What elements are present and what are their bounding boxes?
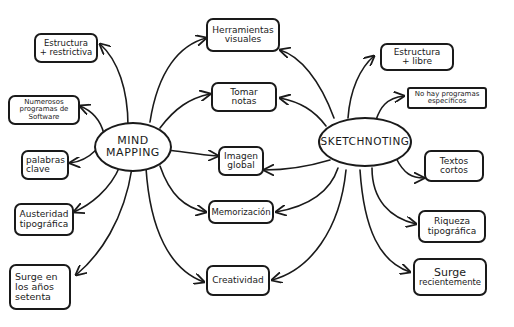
arrow-sk-creatividad bbox=[272, 170, 346, 280]
box-numerosos-programas: Numerosos programas de Software bbox=[8, 95, 80, 125]
box-text: visuales bbox=[225, 35, 261, 44]
box-surge-setenta: Surge en los años setenta bbox=[9, 264, 71, 310]
arrow-sk-textos bbox=[396, 158, 424, 178]
box-creatividad: Creatividad bbox=[206, 265, 270, 296]
sketchnoting-label: SKETCHNOTING bbox=[321, 136, 410, 147]
arrow-mm-austeridad bbox=[74, 166, 120, 212]
box-surge-recientemente: Surge recientemente bbox=[413, 258, 487, 296]
box-text: global bbox=[227, 161, 254, 170]
box-text: + restrictiva bbox=[40, 48, 93, 57]
arrow-sk-imagen bbox=[264, 160, 330, 170]
box-text: específicos bbox=[428, 98, 467, 105]
mind-map-vs-sketchnoting-diagram: MIND MAPPING SKETCHNOTING Estructura + r… bbox=[0, 0, 514, 327]
box-textos-cortos: Textos cortos bbox=[424, 150, 484, 182]
arrow-mm-palabras bbox=[70, 150, 96, 163]
box-text: Creatividad bbox=[212, 276, 264, 285]
box-text: + libre bbox=[402, 57, 432, 66]
sketchnoting-node: SKETCHNOTING bbox=[318, 117, 412, 167]
box-text: notas bbox=[232, 97, 257, 106]
arrow-mm-tomar bbox=[160, 94, 210, 128]
mind-mapping-line2: MAPPING bbox=[106, 147, 160, 159]
arrow-mm-memorizacion bbox=[160, 166, 206, 212]
box-text: recientemente bbox=[419, 278, 481, 287]
arrow-mm-estructura bbox=[100, 44, 128, 126]
box-text: clave bbox=[26, 165, 50, 174]
box-imagen-global: Imagen global bbox=[218, 146, 264, 176]
arrow-mm-surge bbox=[76, 168, 132, 275]
box-memorizacion: Memorización bbox=[208, 200, 274, 224]
box-text: Software bbox=[29, 114, 60, 121]
box-riqueza-tipografica: Riqueza tipográfica bbox=[418, 210, 486, 243]
box-text: Memorización bbox=[211, 208, 270, 217]
arrow-sk-surge bbox=[360, 170, 410, 272]
box-herramientas-visuales: Herramientas visuales bbox=[206, 18, 280, 52]
arrow-mm-numerosos bbox=[80, 106, 104, 134]
arrow-sk-memorizacion bbox=[276, 168, 338, 212]
box-tomar-notas: Tomar notas bbox=[211, 82, 277, 112]
box-text: tipográfica bbox=[20, 220, 68, 229]
arrow-mm-creatividad bbox=[146, 168, 204, 282]
arrow-sk-tomar bbox=[280, 98, 326, 126]
box-text: setenta bbox=[15, 292, 51, 302]
box-austeridad-tipografica: Austeridad tipográfica bbox=[14, 203, 74, 236]
box-no-hay-programas: No hay programas específicos bbox=[407, 87, 487, 109]
arrow-sk-riqueza bbox=[372, 168, 416, 224]
box-estructura-restrictiva: Estructura + restrictiva bbox=[34, 33, 98, 63]
arrow-sk-estructura bbox=[348, 56, 374, 118]
mind-mapping-node: MIND MAPPING bbox=[94, 122, 172, 172]
box-palabras-clave: palabras clave bbox=[21, 150, 69, 180]
arrow-mm-imagen bbox=[168, 150, 218, 156]
box-estructura-libre: Estructura + libre bbox=[380, 43, 454, 71]
box-text: cortos bbox=[440, 166, 468, 175]
arrow-sk-nohay bbox=[376, 96, 404, 120]
box-text: tipográfica bbox=[428, 227, 476, 236]
